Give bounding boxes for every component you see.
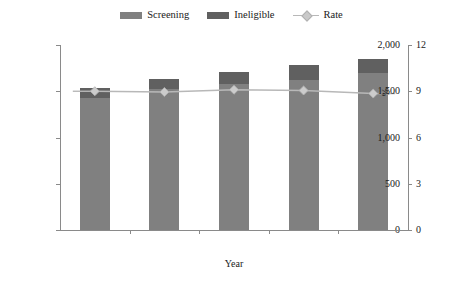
y-axis-left-tick-label: 1,000: [348, 133, 400, 143]
x-axis-line: [60, 230, 409, 231]
chart-container: ScreeningIneligibleRate 05001,0001,5002,…: [0, 0, 463, 281]
y-axis-right-tick-label: 6: [416, 133, 438, 143]
y-axis-right-tick-label: 3: [416, 179, 438, 189]
chart-legend: ScreeningIneligibleRate: [0, 10, 463, 21]
y-axis-left-line: [60, 45, 61, 230]
plot-area: 05001,0001,5002,000036912201520162017201…: [60, 45, 408, 230]
y-axis-right-tick-label: 9: [416, 86, 438, 96]
y-axis-left-tick-label: 2,000: [348, 40, 400, 50]
x-axis-title: Year: [60, 258, 408, 269]
rate-marker-2017[interactable]: [229, 85, 238, 94]
y-axis-right-line: [408, 45, 409, 230]
y-axis-left-tick-label: 1,500: [348, 86, 400, 96]
legend-swatch-icon: [120, 12, 142, 19]
legend-item-screening[interactable]: Screening: [120, 10, 189, 21]
y-axis-right-title: %: [380, 88, 391, 96]
rate-marker-2015[interactable]: [90, 87, 99, 96]
legend-item-rate[interactable]: Rate: [293, 10, 343, 21]
legend-label: Ineligible: [234, 10, 274, 21]
rate-marker-2016[interactable]: [160, 87, 169, 96]
legend-label: Screening: [147, 10, 189, 21]
legend-label: Rate: [324, 10, 343, 21]
legend-item-ineligible[interactable]: Ineligible: [207, 10, 274, 21]
y-axis-right-tick-label: 0: [416, 225, 438, 235]
rate-marker-2018[interactable]: [299, 86, 308, 95]
y-axis-left-tick-label: 500: [348, 179, 400, 189]
legend-swatch-icon: [207, 12, 229, 19]
legend-line-marker-icon: [293, 12, 319, 19]
y-axis-right-tick-label: 12: [416, 40, 438, 50]
